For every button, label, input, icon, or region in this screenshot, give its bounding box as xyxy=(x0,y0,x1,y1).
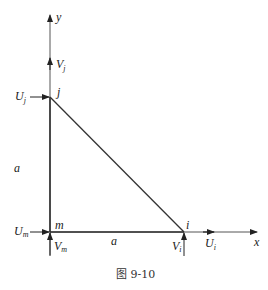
node-label-m: m xyxy=(55,218,64,232)
x-axis-label: x xyxy=(253,235,260,249)
vj-label: Vj xyxy=(56,57,66,73)
ui-label: Ui xyxy=(205,236,216,252)
triangle-element-diagram: y x a a j m i Vj Uj Um Vm Vi Ui 图 9-10 xyxy=(0,0,268,290)
vm-label: Vm xyxy=(54,239,67,254)
vi-label: Vi xyxy=(172,239,182,254)
edge-i-j xyxy=(50,97,184,232)
figure-caption: 图 9-10 xyxy=(116,268,155,281)
uj-label: Uj xyxy=(15,89,27,105)
edge-label-mj: a xyxy=(14,161,20,175)
y-axis-label: y xyxy=(55,10,62,24)
node-label-i: i xyxy=(186,218,189,232)
edge-label-mi: a xyxy=(111,234,117,248)
node-label-j: j xyxy=(55,85,61,99)
um-label: Um xyxy=(14,224,29,239)
